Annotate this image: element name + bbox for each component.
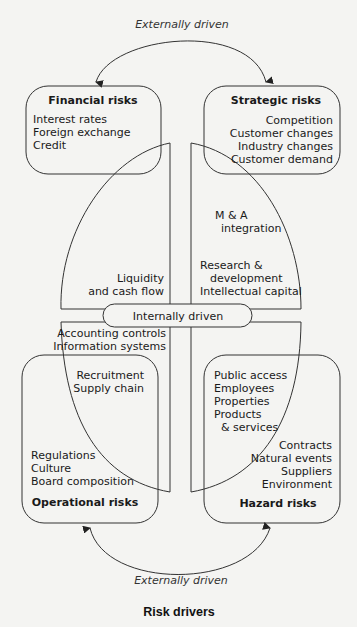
strategic-item: Customer changes: [230, 127, 333, 140]
hazard-item: Contracts: [279, 439, 332, 452]
strategic-overlap-item: integration: [221, 222, 281, 235]
operational-overlap-item: Supply chain: [73, 382, 144, 395]
hazard-overlap-item: & services: [221, 421, 278, 434]
top-left-item: Liquidity: [117, 272, 165, 285]
risk-drivers-diagram: Externally driven Internally driven Exte…: [0, 0, 357, 627]
strategic-overlap-item: M & A: [215, 209, 248, 222]
hazard-overlap-item: Properties: [214, 395, 270, 408]
strategic-item: Customer demand: [231, 153, 333, 166]
strategic-title: Strategic risks: [231, 94, 322, 107]
top-right-item: Intellectual capital: [200, 285, 302, 298]
hazard-overlap-item: Public access: [214, 369, 287, 382]
financial-item: Foreign exchange: [33, 126, 131, 139]
hazard-overlap-item: Products: [214, 408, 262, 421]
financial-title: Financial risks: [48, 94, 138, 107]
internal-label: Internally driven: [133, 310, 223, 323]
strategic-item: Industry changes: [238, 140, 333, 153]
top-left-item: and cash flow: [88, 285, 164, 298]
operational-overlap-item: Recruitment: [76, 369, 144, 382]
top-right-item: development: [210, 272, 283, 285]
top-right-item: Research &: [200, 259, 263, 272]
hazard-overlap-item: Employees: [214, 382, 274, 395]
bottom-left-item: Information systems: [53, 340, 166, 353]
hazard-item: Natural events: [251, 452, 332, 465]
external-label-top: Externally driven: [135, 18, 229, 31]
financial-item: Interest rates: [33, 113, 107, 126]
operational-item: Board composition: [31, 475, 134, 488]
external-arrow-top: [96, 41, 266, 82]
figure-caption: Risk drivers: [143, 605, 215, 619]
operational-item: Culture: [31, 462, 71, 475]
hazard-item: Suppliers: [281, 465, 332, 478]
bottom-left-item: Accounting controls: [57, 327, 166, 340]
hazard-item: Environment: [262, 478, 333, 491]
hazard-title: Hazard risks: [239, 497, 317, 510]
external-arrow-bottom: [90, 528, 270, 575]
financial-item: Credit: [33, 139, 67, 152]
operational-title: Operational risks: [32, 496, 139, 509]
strategic-item: Competition: [266, 114, 333, 127]
external-label-bottom: Externally driven: [134, 574, 228, 587]
operational-item: Regulations: [31, 449, 96, 462]
